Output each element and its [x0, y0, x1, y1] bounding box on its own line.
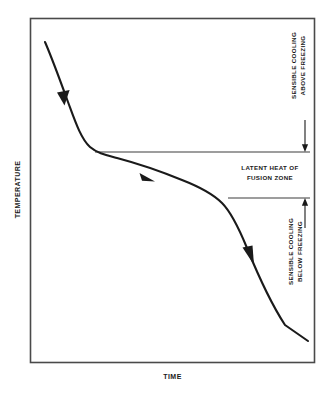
- zone-label-sensible-cooling-below-freezing: SENSIBLE COOLING BELOW FREEZING: [287, 197, 304, 307]
- cooling-curve-figure: TEMPERATURE TIME SENSIBLE COOLING ABOVE …: [0, 0, 331, 393]
- plot-frame: [31, 19, 315, 363]
- zone-label-line-2: BELOW FREEZING: [295, 197, 304, 307]
- zone-label-latent-heat-of-fusion: LATENT HEAT OF FUSION ZONE: [228, 163, 312, 182]
- zone-label-line-2: FUSION ZONE: [228, 173, 312, 183]
- cooling-curve-plot: [0, 0, 331, 393]
- x-axis-title: TIME: [30, 373, 315, 380]
- y-axis-title: TEMPERATURE: [14, 145, 21, 235]
- zone-label-line-1: LATENT HEAT OF: [228, 163, 312, 173]
- zone-label-line-1: SENSIBLE COOLING: [290, 11, 299, 121]
- zone-label-line-2: ABOVE FREEZING: [298, 11, 307, 121]
- zone-label-sensible-cooling-above-freezing: SENSIBLE COOLING ABOVE FREEZING: [290, 11, 307, 121]
- zone-label-line-1: SENSIBLE COOLING: [287, 197, 296, 307]
